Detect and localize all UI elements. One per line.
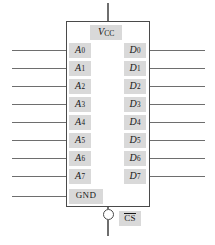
pin-label-d1-subscript: 1 xyxy=(137,66,141,73)
pin-label-d1-letter: D xyxy=(129,63,136,73)
pin-label-d7: D7 xyxy=(124,169,146,184)
pin-label-d0-letter: D xyxy=(129,45,136,55)
pin-label-d1: D1 xyxy=(124,61,146,76)
pin-label-a4: A4 xyxy=(69,115,91,130)
pin-label-a1: A1 xyxy=(69,61,91,76)
inversion-bubble-icon xyxy=(103,209,114,220)
pin-label-a2-subscript: 2 xyxy=(82,84,86,91)
pin-label-a7: A7 xyxy=(69,169,91,184)
pin-label-a2: A2 xyxy=(69,79,91,94)
pin-label-d7-letter: D xyxy=(129,171,136,181)
pin-label-a1-subscript: 1 xyxy=(82,66,86,73)
pin-label-a4-subscript: 4 xyxy=(82,120,86,127)
pin-label-a6: A6 xyxy=(69,151,91,166)
pin-label-a3-letter: A xyxy=(75,99,81,109)
vcc-label: VCC xyxy=(90,25,122,40)
cs-label-text: CS xyxy=(124,213,136,223)
pin-label-a7-letter: A xyxy=(75,171,81,181)
pin-label-d3-subscript: 3 xyxy=(137,102,141,109)
pin-label-a6-letter: A xyxy=(75,153,81,163)
pin-label-d6-letter: D xyxy=(129,153,136,163)
pin-label-d6-subscript: 6 xyxy=(137,156,141,163)
pin-label-a6-subscript: 6 xyxy=(82,156,86,163)
pin-label-a5-subscript: 5 xyxy=(82,138,86,145)
pin-label-d2-subscript: 2 xyxy=(137,84,141,91)
pin-label-a5-letter: A xyxy=(75,135,81,145)
pin-label-d6: D6 xyxy=(124,151,146,166)
pin-label-d5-letter: D xyxy=(129,135,136,145)
pin-label-d4: D4 xyxy=(124,115,146,130)
pin-label-a4-letter: A xyxy=(75,117,81,127)
pin-label-a0-subscript: 0 xyxy=(82,48,86,55)
pin-label-a1-letter: A xyxy=(75,63,81,73)
pin-label-a7-subscript: 7 xyxy=(82,174,86,181)
pin-label-a5: A5 xyxy=(69,133,91,148)
pin-label-a0-letter: A xyxy=(75,45,81,55)
pin-label-d3-letter: D xyxy=(129,99,136,109)
gnd-label: GND xyxy=(69,189,103,204)
pin-label-d5: D5 xyxy=(124,133,146,148)
pin-label-a3: A3 xyxy=(69,97,91,112)
pin-label-d4-letter: D xyxy=(129,117,136,127)
pin-label-d2-letter: D xyxy=(129,81,136,91)
gnd-label-text: GND xyxy=(76,191,96,200)
chip-pinout-diagram: VCC A0A1A2A3A4A5A6A7 D0D1D2D3D4D5D6D7 GN… xyxy=(0,0,215,245)
vcc-label-subscript: CC xyxy=(104,30,114,38)
vcc-label-letter: V xyxy=(98,27,104,37)
pin-label-d2: D2 xyxy=(124,79,146,94)
pin-label-d5-subscript: 5 xyxy=(137,138,141,145)
pin-label-d3: D3 xyxy=(124,97,146,112)
pin-label-a0: A0 xyxy=(69,43,91,58)
pin-label-d7-subscript: 7 xyxy=(137,174,141,181)
pin-label-d0: D0 xyxy=(124,43,146,58)
right-pin-wires xyxy=(150,50,205,176)
pin-label-a3-subscript: 3 xyxy=(82,102,86,109)
left-pin-wires xyxy=(12,50,66,196)
pin-label-d0-subscript: 0 xyxy=(137,48,141,55)
cs-label: CS xyxy=(119,211,141,226)
pin-label-a2-letter: A xyxy=(75,81,81,91)
pin-label-d4-subscript: 4 xyxy=(137,120,141,127)
